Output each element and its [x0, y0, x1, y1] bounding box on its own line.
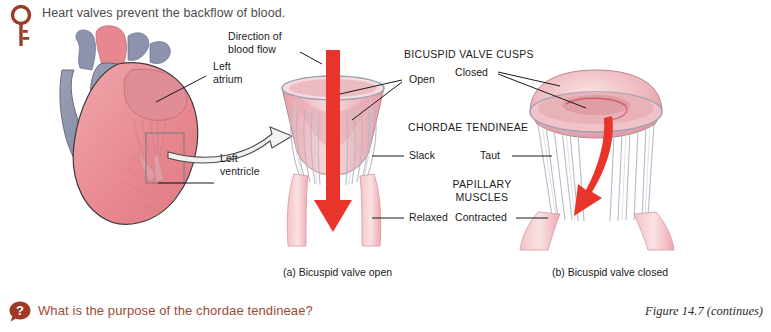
label-chordae-slack: Slack [409, 149, 435, 162]
figure-caption: Figure 14.7 (continues) [645, 304, 763, 319]
bicuspid-valve-open [282, 50, 384, 246]
heading-bicuspid-valve-cusps: BICUSPID VALVE CUSPS [404, 48, 534, 61]
label-direction-of-blood-flow: Direction of blood flow [228, 30, 282, 55]
svg-text:?: ? [16, 303, 24, 318]
subcaption-valve-open: (a) Bicuspid valve open [283, 266, 392, 278]
figure-page: Heart valves prevent the backflow of blo… [0, 0, 771, 332]
label-papillary-relaxed: Relaxed [409, 211, 448, 224]
bicuspid-valve-closed [520, 70, 674, 250]
label-left-ventricle: Left ventricle [220, 152, 260, 177]
label-chordae-taut: Taut [480, 149, 500, 162]
intro-text: Heart valves prevent the backflow of blo… [42, 6, 285, 20]
subcaption-valve-closed: (b) Bicuspid valve closed [552, 266, 668, 278]
heading-chordae-tendineae: CHORDAE TENDINEAE [408, 121, 528, 134]
label-left-atrium: Left atrium [213, 60, 242, 85]
question-text: What is the purpose of the chordae tendi… [38, 303, 313, 318]
heading-papillary-muscles: PAPILLARY MUSCLES [437, 178, 527, 203]
label-papillary-contracted: Contracted [455, 211, 507, 224]
label-cusps-closed: Closed [455, 66, 488, 79]
figure-artwork [0, 20, 771, 288]
label-cusps-open: Open [409, 73, 435, 86]
question-bubble-icon: ? [8, 300, 32, 324]
heart-cross-section [60, 26, 198, 225]
